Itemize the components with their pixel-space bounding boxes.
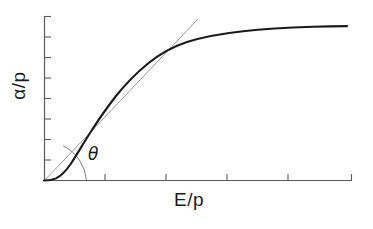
figure-container: α/p E/p θ [0,0,373,229]
x-axis-label: E/p [174,190,204,209]
theta-angle-arc [63,146,87,181]
x-axis-ticks [105,174,352,181]
theta-angle-label: θ [88,146,98,163]
tangent-line [45,19,199,181]
y-axis-ticks [45,17,52,161]
y-axis-label: α/p [9,71,28,99]
